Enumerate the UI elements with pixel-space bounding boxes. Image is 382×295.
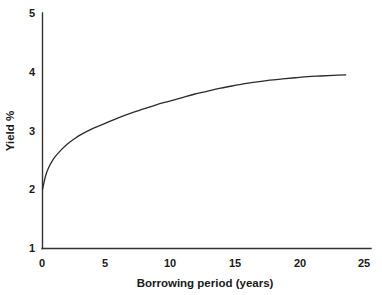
y-tick-label-4: 4: [29, 66, 36, 78]
chart-background: [0, 0, 382, 295]
x-tick-label-10: 10: [164, 257, 176, 269]
y-tick-label-5: 5: [29, 7, 35, 19]
y-axis-title: Yield %: [4, 111, 16, 151]
x-axis-title: Borrowing period (years): [137, 277, 274, 289]
x-tick-label-5: 5: [102, 257, 108, 269]
x-tick-label-15: 15: [229, 257, 241, 269]
chart-canvas: 5 4 3 2 1 0 5 10 15 20 25 Yield % Borrow…: [0, 0, 382, 295]
y-tick-label-1: 1: [29, 242, 35, 254]
y-tick-label-3: 3: [29, 125, 35, 137]
yield-curve-chart: 5 4 3 2 1 0 5 10 15 20 25 Yield % Borrow…: [0, 0, 382, 295]
y-tick-label-2: 2: [29, 183, 35, 195]
x-tick-label-20: 20: [294, 257, 306, 269]
x-tick-label-0: 0: [39, 257, 45, 269]
x-tick-label-25: 25: [358, 257, 370, 269]
